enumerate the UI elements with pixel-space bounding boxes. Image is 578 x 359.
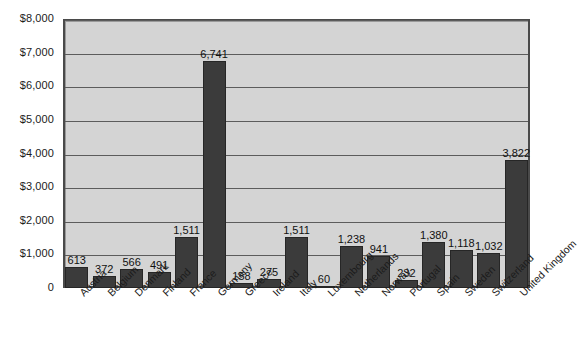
y-axis-tick-label: $5,000 bbox=[0, 113, 58, 125]
bar[interactable] bbox=[203, 61, 226, 288]
bar-group: 566 bbox=[118, 19, 145, 288]
y-axis-tick-label: $4,000 bbox=[0, 147, 58, 159]
bar-group: 275 bbox=[255, 19, 282, 288]
x-axis: AustriaBelgiumDenmarkFinlandFranceGerman… bbox=[63, 290, 530, 359]
bar-group: 232 bbox=[393, 19, 420, 288]
y-axis-tick-label: $6,000 bbox=[0, 79, 58, 91]
bar-group: 941 bbox=[365, 19, 392, 288]
bar-group: 6,741 bbox=[200, 19, 227, 288]
bars-layer: 6133725664911,5116,7411582751,511601,238… bbox=[63, 19, 530, 288]
y-axis-tick-label: 0 bbox=[0, 281, 58, 293]
bar-group: 158 bbox=[228, 19, 255, 288]
y-axis-tick-label: $2,000 bbox=[0, 214, 58, 226]
y-axis: 0$1,000$2,000$3,000$4,000$5,000$6,000$7,… bbox=[0, 0, 58, 359]
y-axis-tick-label: $3,000 bbox=[0, 180, 58, 192]
y-axis-tick-label: $8,000 bbox=[0, 12, 58, 24]
y-axis-tick-label: $7,000 bbox=[0, 46, 58, 58]
bar-value-label: 3,822 bbox=[486, 147, 546, 159]
bar-group: 372 bbox=[90, 19, 117, 288]
bar-group: 1,511 bbox=[283, 19, 310, 288]
bar-group: 60 bbox=[310, 19, 337, 288]
bar-group: 491 bbox=[145, 19, 172, 288]
bar-group: 3,822 bbox=[503, 19, 530, 288]
bar-group: 613 bbox=[63, 19, 90, 288]
